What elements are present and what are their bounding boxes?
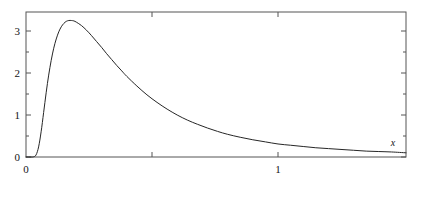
y-tick-label: 1 — [15, 109, 21, 121]
x-axis-label: x — [390, 137, 396, 148]
chart-container: 012301 x — [0, 0, 422, 198]
x-tick-label: 1 — [275, 163, 281, 175]
density-plot: 012301 x — [0, 0, 422, 198]
y-tick-label: 0 — [15, 151, 21, 163]
y-tick-label: 2 — [15, 67, 21, 79]
y-tick-label: 3 — [15, 25, 21, 37]
x-tick-label: 0 — [23, 163, 29, 175]
plot-background — [0, 0, 422, 198]
